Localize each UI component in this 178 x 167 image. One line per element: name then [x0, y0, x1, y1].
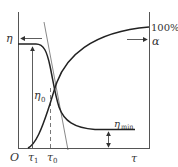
eta-min-label: η	[114, 118, 120, 129]
eta0-subscript: 0	[41, 96, 45, 104]
tau0-subscript: 0	[53, 157, 57, 165]
cure-viscosity-diagram: η 100% α η 0 η min O τ 1 τ 0 τ	[0, 0, 178, 167]
tau-axis-label: τ	[131, 152, 138, 165]
viscosity-curve	[18, 44, 135, 130]
tau1-subscript: 1	[34, 157, 38, 165]
origin-label: O	[10, 151, 19, 164]
percent-label: 100%	[151, 22, 178, 33]
alpha-label: α	[152, 35, 160, 48]
eta-label: η	[6, 32, 13, 45]
eta-min-subscript: min	[121, 123, 133, 131]
eta0-label: η	[34, 89, 41, 102]
